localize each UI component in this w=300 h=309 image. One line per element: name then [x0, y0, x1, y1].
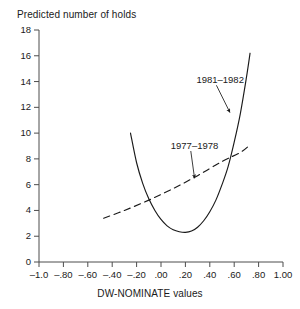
y-tick-label: 8: [0, 153, 31, 164]
y-tick-label: 0: [0, 256, 31, 267]
y-axis-ticks: [34, 30, 39, 262]
plot-canvas: [0, 0, 300, 309]
x-tick-label: 1.00: [263, 269, 300, 280]
y-tick-label: 4: [0, 204, 31, 215]
x-axis-title: DW-NOMINATE values: [0, 288, 300, 299]
y-tick-label: 6: [0, 179, 31, 190]
y-tick-label: 12: [0, 101, 31, 112]
y-tick-label: 2: [0, 230, 31, 241]
annotation-arrow: [216, 85, 230, 112]
y-tick-label: 14: [0, 76, 31, 87]
y-tick-label: 10: [0, 127, 31, 138]
series-line-1977-1978: [104, 145, 250, 218]
axes-group: [39, 30, 283, 262]
chart-figure: Predicted number of holds 02468101214161…: [0, 0, 300, 309]
y-tick-label: 16: [0, 50, 31, 61]
x-axis-ticks: [39, 262, 283, 267]
annotation-arrows: [191, 85, 230, 178]
annotation-arrow: [191, 151, 195, 178]
series-annotation-label: 1977–1978: [171, 140, 219, 151]
series-annotation-label: 1981–1982: [196, 74, 244, 85]
y-tick-label: 18: [0, 24, 31, 35]
